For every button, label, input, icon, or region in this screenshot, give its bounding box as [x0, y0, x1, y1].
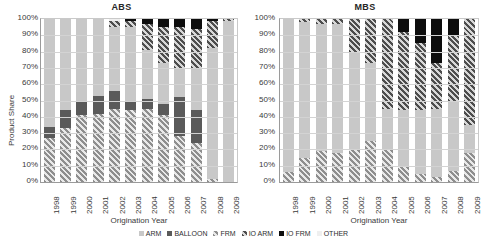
abs-x-tick: 2000: [85, 196, 94, 214]
abs-gridline: [41, 133, 237, 134]
abs-segment-arm: [174, 68, 185, 97]
legend-label-other: OTHER: [324, 230, 349, 237]
mbs-x-tick: 2000: [324, 196, 333, 214]
mbs-segment-arm: [415, 110, 426, 174]
mbs-segment-ioarm: [382, 19, 393, 109]
mbs-segment-frm: [332, 153, 343, 182]
legend-swatch-balloon-icon: [167, 231, 172, 236]
abs-y-tick: 0%: [12, 177, 38, 185]
mbs-x-tick: 2003: [374, 196, 383, 214]
mbs-segment-iofrm: [415, 19, 426, 43]
mbs-segment-frm: [448, 171, 459, 182]
abs-y-tick: 70%: [12, 63, 38, 71]
abs-plot-area: [40, 18, 238, 183]
mbs-segment-frm: [283, 172, 294, 182]
abs-segment-arm: [191, 68, 202, 110]
abs-segment-frm: [109, 109, 120, 182]
abs-x-tick: 2007: [199, 196, 208, 214]
mbs-segment-iofrm: [431, 19, 442, 63]
legend-item-balloon[interactable]: BALLOON: [167, 230, 207, 237]
chart-legend: ARMBALLOONFRMIO ARMIO FRMOTHER: [0, 230, 487, 237]
abs-gridline: [41, 52, 237, 53]
abs-segment-iofrm: [174, 19, 185, 27]
legend-swatch-iofrm-icon: [279, 231, 284, 236]
mbs-gridline: [280, 133, 478, 134]
mbs-x-tick: 2004: [390, 196, 399, 214]
mbs-segment-arm: [398, 110, 409, 165]
abs-segment-frm: [142, 109, 153, 182]
abs-y-tick: 90%: [12, 30, 38, 38]
abs-x-tick: 2001: [101, 196, 110, 214]
abs-segment-frm: [44, 138, 55, 182]
mbs-y-tick: 100%: [249, 14, 275, 22]
mbs-segment-frm: [415, 174, 426, 182]
abs-y-tick: 30%: [12, 128, 38, 136]
abs-segment-iofrm: [158, 19, 169, 27]
abs-gridline: [41, 35, 237, 36]
mbs-segment-ioarm: [398, 32, 409, 110]
mbs-gridline: [280, 35, 478, 36]
mbs-segment-arm: [365, 63, 376, 141]
abs-segment-arm: [109, 27, 120, 91]
mbs-y-tick: 20%: [249, 144, 275, 152]
abs-segment-balloon: [125, 101, 136, 111]
abs-y-tick: 60%: [12, 79, 38, 87]
legend-item-iofrm[interactable]: IO FRM: [279, 230, 311, 237]
legend-label-balloon: BALLOON: [174, 230, 207, 237]
mbs-y-tick: 80%: [249, 47, 275, 55]
mbs-y-tick: 70%: [249, 63, 275, 71]
chart-figure: ABS Product Share 100%90%80%70%60%50%40%…: [0, 0, 487, 247]
abs-y-tick: 40%: [12, 112, 38, 120]
abs-segment-ioarm: [158, 27, 169, 63]
legend-label-ioarm: IO ARM: [249, 230, 274, 237]
mbs-y-tick: 50%: [249, 96, 275, 104]
abs-gridline: [41, 101, 237, 102]
abs-x-tick: 2004: [150, 196, 159, 214]
mbs-segment-ioarm: [431, 63, 442, 109]
mbs-chart-title: MBS: [243, 2, 487, 12]
mbs-segment-iofrm: [398, 19, 409, 32]
abs-y-tick: 80%: [12, 47, 38, 55]
mbs-gridline: [280, 84, 478, 85]
legend-swatch-frm-icon: [213, 231, 218, 236]
abs-gridline: [41, 84, 237, 85]
mbs-gridline: [280, 117, 478, 118]
abs-y-tick: 100%: [12, 14, 38, 22]
mbs-gridline: [280, 52, 478, 53]
mbs-segment-arm: [431, 109, 442, 177]
mbs-y-tick: 0%: [249, 177, 275, 185]
mbs-x-tick: 2006: [423, 196, 432, 214]
abs-x-tick: 1999: [69, 196, 78, 214]
mbs-x-tick: 1998: [291, 196, 300, 214]
mbs-y-tick: 30%: [249, 128, 275, 136]
mbs-x-tick: 2008: [456, 196, 465, 214]
legend-label-iofrm: IO FRM: [286, 230, 311, 237]
legend-item-other[interactable]: OTHER: [317, 230, 349, 237]
abs-segment-ioarm: [174, 27, 185, 68]
mbs-x-tick: 2001: [341, 196, 350, 214]
abs-x-tick: 2008: [216, 196, 225, 214]
abs-x-tick: 2002: [118, 196, 127, 214]
abs-y-axis-ticks: 100%90%80%70%60%50%40%30%20%10%0%: [12, 0, 38, 182]
mbs-segment-ioarm: [365, 19, 376, 63]
abs-y-tick: 50%: [12, 96, 38, 104]
mbs-x-tick: 2007: [440, 196, 449, 214]
mbs-y-tick: 90%: [249, 30, 275, 38]
mbs-segment-frm: [365, 141, 376, 182]
abs-segment-balloon: [60, 110, 71, 128]
abs-segment-iofrm: [191, 19, 202, 29]
abs-segment-frm: [207, 179, 218, 182]
abs-segment-arm: [60, 19, 71, 110]
legend-item-ioarm[interactable]: IO ARM: [242, 230, 274, 237]
legend-item-arm[interactable]: ARM: [139, 230, 162, 237]
mbs-segment-arm: [448, 101, 459, 171]
mbs-y-tick: 40%: [249, 112, 275, 120]
legend-item-frm[interactable]: FRM: [213, 230, 235, 237]
abs-x-tick: 2006: [183, 196, 192, 214]
mbs-y-axis-ticks: 100%90%80%70%60%50%40%30%20%10%0%: [249, 0, 275, 182]
mbs-gridline: [280, 149, 478, 150]
mbs-segment-iofrm: [448, 19, 459, 35]
mbs-segment-arm: [299, 22, 310, 157]
abs-x-axis-ticks: 1998199920002001200220032004200520062007…: [40, 185, 238, 219]
abs-y-tick: 10%: [12, 161, 38, 169]
